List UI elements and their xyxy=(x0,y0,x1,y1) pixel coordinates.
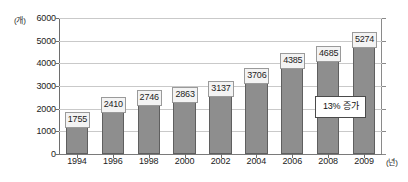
bar-value-label: 3706 xyxy=(244,68,269,84)
right-axis-tick xyxy=(382,41,386,42)
y-axis-tick-label: 6000 xyxy=(8,13,56,23)
y-axis-tick xyxy=(55,63,59,64)
right-axis-tick xyxy=(382,86,386,87)
x-axis-tick-label: 2006 xyxy=(282,156,302,166)
y-axis-tick-label: 2000 xyxy=(8,104,56,114)
y-axis-tick xyxy=(55,86,59,87)
right-axis-tick xyxy=(382,109,386,110)
y-axis-tick xyxy=(55,154,59,155)
x-axis-tick-label: 1994 xyxy=(67,156,87,166)
right-axis-tick xyxy=(382,154,386,155)
y-axis-tick-label: 0 xyxy=(8,149,56,159)
y-axis-tick-label: 4000 xyxy=(8,58,56,68)
x-axis-tick-label: 2004 xyxy=(247,156,267,166)
y-axis-tick xyxy=(55,41,59,42)
x-axis-tick-label: 2009 xyxy=(354,156,374,166)
bar-value-label: 2410 xyxy=(101,97,126,113)
bar-chart: (개) 0100020003000400050006000 1755241027… xyxy=(0,0,408,182)
bar-value-label: 1755 xyxy=(65,112,90,128)
gridline xyxy=(59,41,382,42)
right-axis-tick xyxy=(382,131,386,132)
y-axis-tick-label: 1000 xyxy=(8,126,56,136)
bar-value-label: 5274 xyxy=(352,32,377,48)
y-axis-tick-label: 3000 xyxy=(8,81,56,91)
annotation-callout: 13% 증가 xyxy=(315,96,366,118)
y-axis-tick xyxy=(55,18,59,19)
gridline xyxy=(59,18,382,19)
bar xyxy=(281,55,303,154)
x-axis-tick-labels: 199419961998200020022004200620082009 xyxy=(59,156,382,172)
y-axis-tick-labels: 0100020003000400050006000 xyxy=(6,0,56,182)
bar-value-label: 4385 xyxy=(280,53,305,69)
bar-value-label: 2863 xyxy=(172,87,197,103)
x-axis-tick-label: 2000 xyxy=(175,156,195,166)
x-axis-tick-label: 1996 xyxy=(103,156,123,166)
bar-value-label: 4685 xyxy=(316,46,341,62)
bar-value-label: 3137 xyxy=(208,81,233,97)
right-axis-tick xyxy=(382,18,386,19)
bar-value-label: 2746 xyxy=(137,90,162,106)
y-axis-tick-label: 5000 xyxy=(8,36,56,46)
y-axis-tick xyxy=(55,131,59,132)
x-axis-tick-label: 2008 xyxy=(318,156,338,166)
plot-area: 175524102746286331373706438546855274 xyxy=(59,18,382,154)
x-axis-tick-label: 1998 xyxy=(139,156,159,166)
x-axis-tick-label: 2002 xyxy=(211,156,231,166)
y-axis-tick xyxy=(55,109,59,110)
x-axis-unit-label: (년) xyxy=(386,156,398,167)
right-axis-tick xyxy=(382,63,386,64)
bar xyxy=(353,34,375,154)
